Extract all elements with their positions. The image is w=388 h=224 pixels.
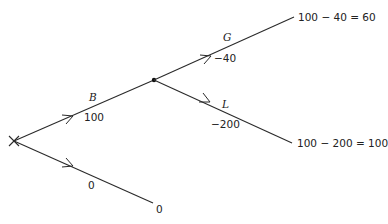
edge-l bbox=[154, 80, 292, 143]
edge-l-name: L bbox=[222, 99, 229, 110]
outcome-g: 100 − 40 = 60 bbox=[298, 12, 376, 23]
edge-b-value: 100 bbox=[84, 112, 104, 123]
edge-g-value: −40 bbox=[214, 53, 236, 64]
edge-b-name: B bbox=[89, 92, 97, 103]
edge-g bbox=[154, 17, 294, 80]
edge-g-name: G bbox=[223, 32, 231, 43]
arrow-l-icon bbox=[199, 93, 210, 102]
edge-zero-value: 0 bbox=[88, 180, 95, 191]
edge-zero bbox=[14, 141, 153, 203]
edge-l-value: −200 bbox=[211, 119, 240, 130]
outcome-zero: 0 bbox=[156, 204, 163, 215]
arrow-zero-icon bbox=[62, 158, 73, 167]
outcome-l: 100 − 200 = 100 bbox=[297, 138, 388, 149]
